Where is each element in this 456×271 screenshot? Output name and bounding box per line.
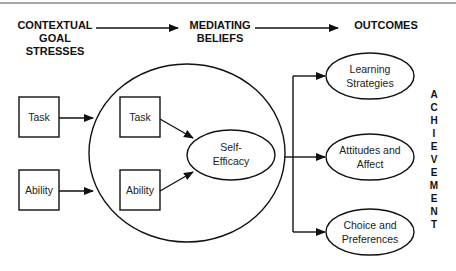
header-contextual-goal-stresses: CONTEXTUAL GOAL STRESSES <box>17 19 92 57</box>
belief-box-ability-label: Ability <box>126 184 155 196</box>
achievement-letter: N <box>430 206 437 217</box>
outcome-label: Attitudes and <box>339 144 400 156</box>
achievement-letter: H <box>430 115 437 126</box>
outcome-label: Strategies <box>346 77 393 89</box>
stress-box-task-label: Task <box>28 111 50 123</box>
achievement-label: A C H I E V E M E N T <box>430 89 438 230</box>
outcome-choice-preferences <box>326 209 414 255</box>
achievement-letter: E <box>431 193 438 204</box>
outcome-label: Learning <box>350 63 391 75</box>
outcome-label: Choice and <box>343 219 396 231</box>
header-line: STRESSES <box>26 45 85 57</box>
outcome-attitudes-affect <box>326 134 414 180</box>
motivation-diagram: CONTEXTUAL GOAL STRESSES MEDIATING BELIE… <box>0 0 456 271</box>
header-line: GOAL <box>39 32 71 44</box>
outcome-learning-strategies <box>326 53 414 99</box>
header-mediating-beliefs: MEDIATING BELIEFS <box>190 19 251 44</box>
achievement-letter: C <box>430 102 437 113</box>
achievement-letter: E <box>431 167 438 178</box>
outcome-label: Affect <box>357 158 384 170</box>
self-efficacy-label: Efficacy <box>213 155 250 167</box>
header-line: BELIEFS <box>197 32 243 44</box>
achievement-letter: M <box>430 180 438 191</box>
achievement-letter: E <box>431 141 438 152</box>
header-line: MEDIATING <box>190 19 251 31</box>
outcome-label: Preferences <box>342 233 399 245</box>
self-efficacy-label: Self- <box>220 141 242 153</box>
achievement-letter: I <box>433 128 436 139</box>
achievement-letter: V <box>431 154 438 165</box>
achievement-letter: T <box>431 219 437 230</box>
stress-box-ability-label: Ability <box>25 184 54 196</box>
header-outcomes: OUTCOMES <box>354 19 418 31</box>
belief-box-task-label: Task <box>129 111 151 123</box>
achievement-letter: A <box>430 89 437 100</box>
header-line: CONTEXTUAL <box>17 19 92 31</box>
